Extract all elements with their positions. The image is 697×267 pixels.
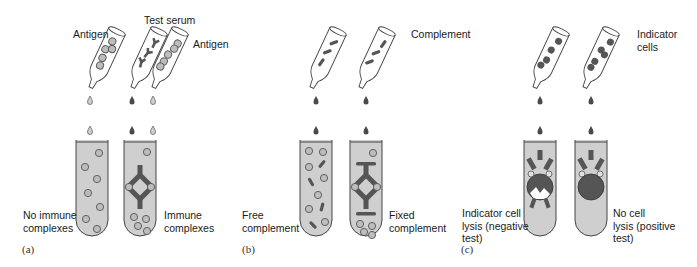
tube-free-complement — [300, 140, 332, 236]
pipette-indicator-cells-right — [577, 25, 621, 91]
tube-no-cell-lysis — [575, 140, 607, 236]
label-free-complement: Free complement — [242, 209, 299, 234]
label-immune-complexes: Immune complexes — [164, 209, 214, 234]
panel-b — [300, 25, 396, 238]
panel-label-c: (c) — [461, 243, 473, 255]
panel-a — [76, 25, 189, 236]
pipette-indicator-cells-left — [527, 25, 571, 91]
label-test-serum: Test serum — [144, 14, 195, 27]
tube-no-immune-complexes — [76, 140, 108, 236]
label-complement: Complement — [411, 28, 471, 41]
label-fixed-complement: Fixed complement — [389, 209, 446, 234]
label-no-immune-complexes: No immune complexes — [23, 209, 77, 234]
panel-label-b: (b) — [242, 243, 255, 255]
label-no-cell-lysis: No cell lysis (positive test) — [613, 207, 675, 245]
label-indicator-cells: Indicator cells — [637, 28, 677, 53]
pipette-complement-left — [304, 25, 348, 91]
label-indicator-cell-lysis: Indicator cell lysis (negative test) — [462, 207, 529, 245]
panel-c — [524, 25, 620, 236]
label-antigen-left: Antigen — [73, 28, 109, 41]
tube-immune-complexes — [124, 140, 156, 236]
panel-label-a: (a) — [22, 243, 34, 255]
pipette-complement-right — [353, 25, 397, 91]
label-antigen-right: Antigen — [193, 38, 229, 51]
tube-fixed-complement — [350, 140, 382, 239]
